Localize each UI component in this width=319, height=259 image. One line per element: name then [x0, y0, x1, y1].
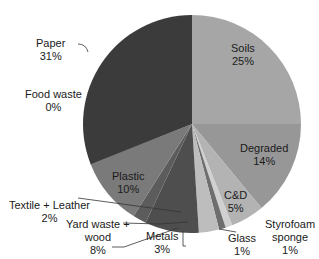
label-food-waste: Food waste 0%: [25, 88, 82, 114]
label-cd-name: C&D: [224, 189, 247, 202]
label-degraded: Degraded 14%: [240, 142, 288, 168]
label-yard-waste: Yard waste + wood 8%: [66, 218, 130, 257]
label-plastic-name: Plastic: [112, 170, 144, 183]
label-styrofoam-name2: sponge: [265, 231, 315, 244]
label-food-name: Food waste: [25, 88, 82, 101]
label-metals: Metals 3%: [146, 230, 178, 256]
label-food-pct: 0%: [25, 101, 82, 114]
label-soils: Soils 25%: [231, 42, 255, 68]
label-plastic: Plastic 10%: [112, 170, 144, 196]
label-degraded-name: Degraded: [240, 142, 288, 155]
label-soils-pct: 25%: [231, 55, 255, 68]
pie-slices: [83, 15, 301, 233]
label-paper-name: Paper: [36, 37, 65, 50]
label-textile-name: Textile + Leather: [9, 199, 90, 212]
label-glass-name: Glass: [228, 232, 256, 245]
label-paper-pct: 31%: [36, 50, 65, 63]
label-metals-pct: 3%: [146, 243, 178, 256]
label-soils-name: Soils: [231, 42, 255, 55]
label-paper: Paper 31%: [36, 37, 65, 63]
label-yard-pct: 8%: [66, 244, 130, 257]
label-glass-pct: 1%: [228, 245, 256, 258]
label-cd-pct: 5%: [224, 202, 247, 215]
label-cd: C&D 5%: [224, 189, 247, 215]
label-yard-name1: Yard waste +: [66, 218, 130, 231]
label-styrofoam-sponge: Styrofoam sponge 1%: [265, 218, 315, 257]
pie-slice-soils: [192, 15, 301, 124]
label-plastic-pct: 10%: [112, 183, 144, 196]
label-degraded-pct: 14%: [240, 155, 288, 168]
label-glass: Glass 1%: [228, 232, 256, 258]
label-styrofoam-pct: 1%: [265, 244, 315, 257]
label-yard-name2: wood: [66, 231, 130, 244]
label-styrofoam-name1: Styrofoam: [265, 218, 315, 231]
label-metals-name: Metals: [146, 230, 178, 243]
